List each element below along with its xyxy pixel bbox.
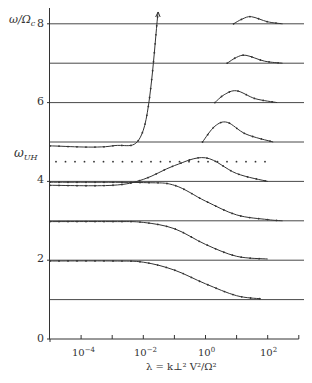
x-tick-1e-2: 10−2 [134, 346, 157, 358]
data-point [139, 261, 141, 263]
data-point [226, 62, 228, 64]
data-point [49, 260, 51, 262]
data-point [242, 54, 244, 56]
data-point [139, 182, 141, 184]
data-point [249, 217, 251, 219]
data-point [121, 221, 123, 223]
data-point [202, 141, 204, 143]
data-point [157, 264, 159, 266]
data-point [155, 34, 157, 36]
data-point [141, 132, 143, 134]
data-point [85, 146, 87, 148]
data-point [223, 209, 225, 211]
dispersion-curves [50, 12, 283, 299]
data-point [103, 181, 105, 183]
data-point [266, 21, 268, 23]
data-point [255, 178, 257, 180]
data-point [214, 160, 216, 162]
data-point [157, 224, 159, 226]
data-point [103, 185, 105, 187]
data-point [174, 228, 176, 230]
data-point [268, 61, 270, 63]
data-point [49, 181, 51, 183]
data-point [67, 185, 69, 187]
x-tick-exp: −2 [147, 346, 157, 354]
data-point [58, 145, 60, 147]
uh-dot [112, 161, 114, 163]
data-point [254, 98, 256, 100]
dispersion-curve [50, 222, 268, 259]
data-point [269, 140, 271, 142]
data-point [112, 184, 114, 186]
y-tick-6: 6 [30, 95, 44, 108]
data-point [180, 162, 182, 164]
data-point [215, 205, 217, 207]
data-point [198, 240, 200, 242]
data-point [103, 146, 105, 148]
uh-dot [198, 161, 200, 163]
data-point [94, 146, 96, 148]
data-point [264, 180, 266, 182]
data-point [190, 236, 192, 238]
uh-dot [188, 161, 190, 163]
data-point [215, 248, 217, 250]
data-point [241, 296, 243, 298]
dispersion-curve [50, 12, 158, 147]
uh-dot [150, 161, 152, 163]
data-point [258, 218, 260, 220]
uh-dot [255, 161, 257, 163]
data-point [85, 185, 87, 187]
data-point [165, 267, 167, 269]
uh-dot [226, 161, 228, 163]
data-point [206, 157, 208, 159]
data-point [228, 91, 230, 93]
uh-label-main: ω [14, 146, 24, 160]
data-point [232, 294, 234, 296]
y-axis-label-main: ω/Ω [9, 13, 31, 26]
data-point [238, 173, 240, 175]
data-point [249, 16, 251, 18]
data-point [49, 184, 51, 186]
data-point [94, 260, 96, 262]
data-point [199, 280, 201, 282]
data-point [240, 256, 242, 258]
data-point [222, 165, 224, 167]
data-point [121, 181, 123, 183]
dispersion-chart [0, 0, 312, 383]
data-point [157, 16, 159, 18]
data-point [260, 138, 262, 140]
data-point [163, 169, 165, 171]
data-point [241, 18, 243, 20]
data-point [148, 262, 150, 264]
axes [47, 8, 299, 342]
uh-dot [122, 161, 124, 163]
data-point [245, 94, 247, 96]
uh-label-sub: UH [24, 153, 38, 162]
data-point [157, 182, 159, 184]
data-point [103, 260, 105, 262]
dispersion-curve [50, 261, 261, 299]
data-point [199, 197, 201, 199]
data-point [214, 102, 216, 104]
x-tick-base: 10 [260, 347, 273, 358]
data-point [67, 146, 69, 148]
data-point [85, 260, 87, 262]
data-point [262, 100, 264, 102]
uh-dot [207, 161, 209, 163]
data-point [240, 215, 242, 217]
data-point [197, 157, 199, 159]
data-point [166, 183, 168, 185]
data-point [112, 145, 114, 147]
data-point [212, 127, 214, 129]
data-point [147, 177, 149, 179]
x-tick-base: 10 [134, 347, 147, 358]
data-point [58, 260, 60, 262]
upper-hybrid-dotted-line [55, 161, 266, 163]
data-point [130, 182, 132, 184]
data-point [277, 62, 279, 64]
data-point [206, 244, 208, 246]
data-point [259, 59, 261, 61]
uh-dot [236, 161, 238, 163]
uh-dot [245, 161, 247, 163]
data-point [247, 176, 249, 178]
